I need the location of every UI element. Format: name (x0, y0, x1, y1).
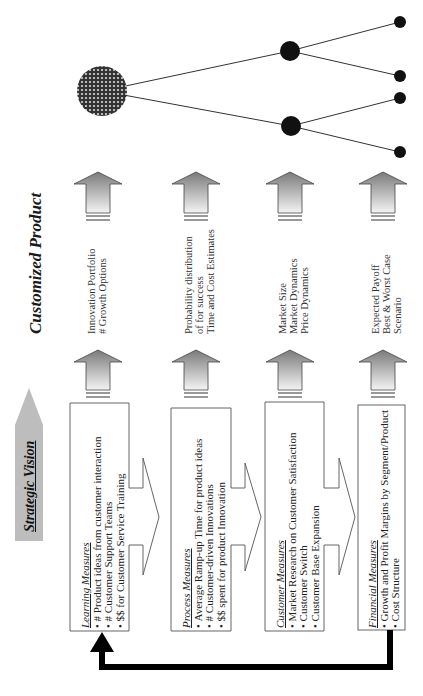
measure-item: $$ spent for product Innovation (216, 439, 228, 628)
customer-measures: Customer Measures Market Research on Cus… (275, 433, 321, 628)
up-arrow-icon (266, 172, 314, 220)
output-line: Market Dynamics (288, 258, 299, 334)
measure-item: # Customer-driven Innovations (204, 439, 216, 628)
output-line: Probability distribution (183, 229, 194, 334)
financial-outputs: Expected Payoff Best & Worst Case Scenar… (370, 254, 403, 334)
feedback-arrow (90, 630, 390, 667)
up-arrow-icon (74, 172, 122, 220)
measures-header: Learning Measures (80, 437, 92, 628)
measures-header: Customer Measures (275, 433, 287, 628)
up-arrow-icon (172, 350, 220, 397)
customer-outputs: Market Size Market Dynamics Price Dynami… (277, 258, 310, 334)
output-line: of for success (194, 229, 205, 334)
branch-node (281, 116, 301, 136)
measure-item: Cost Structure (390, 410, 402, 628)
decision-tree (77, 16, 406, 158)
process-measures: Process Measures Average Ramp-up Time fo… (181, 439, 227, 628)
learning-measures: Learning Measures # Product ideas from c… (80, 437, 126, 628)
process-outputs: Probability distribution of for success … (183, 229, 216, 334)
output-line: Scenario (392, 254, 403, 334)
leaf-node (394, 92, 406, 104)
up-arrow-icon (172, 172, 220, 220)
measure-item: # Customer Support Teams (103, 437, 115, 628)
measures-header: Financial Measures (367, 410, 379, 628)
learning-outputs: Innovation Portfolio # Growth Options (86, 249, 108, 334)
up-arrow-icon (74, 350, 122, 397)
measure-item: Customer Base Expansion (310, 433, 322, 628)
output-line: # Growth Options (97, 249, 108, 334)
leaf-node (394, 146, 406, 158)
branch-node (280, 41, 300, 61)
output-line: Best & Worst Case (381, 254, 392, 334)
output-line: Expected Payoff (370, 254, 381, 334)
up-arrow-icon (359, 350, 407, 397)
upper-up-arrows (74, 172, 407, 220)
up-arrow-icon (266, 350, 314, 397)
leaf-node (394, 16, 406, 28)
financial-measures: Financial Measures Growth and Profit Mar… (367, 410, 402, 628)
measure-item: Customer Switch (298, 433, 310, 628)
output-line: Innovation Portfolio (86, 249, 97, 334)
output-line: Time and Cost Estimates (205, 229, 216, 334)
output-line: Market Size (277, 258, 288, 334)
up-arrow-icon (359, 172, 407, 220)
measure-item: $$ for Customer Service Training (115, 437, 127, 628)
output-line: Price Dynamics (299, 258, 310, 334)
measures-header: Process Measures (181, 439, 193, 628)
strategic-vision-label: Strategic Vision (22, 441, 38, 532)
diagram-title: Customized Product (26, 193, 46, 334)
leaf-node (394, 70, 406, 82)
lower-up-arrows (74, 350, 407, 397)
root-node (77, 66, 127, 116)
